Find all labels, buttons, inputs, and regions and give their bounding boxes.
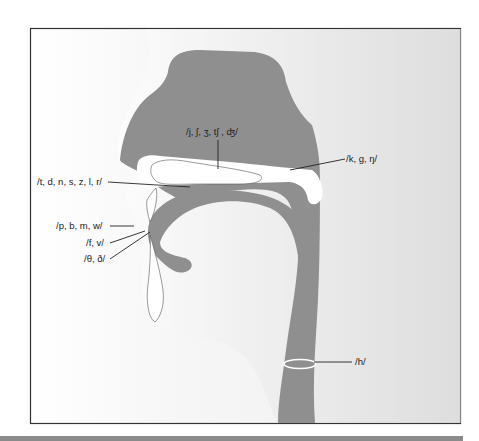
bottom-bar [0,436,463,441]
label-alveolar: /t, d, n, s, z, l, r/ [37,176,102,187]
label-dental: /θ, ð/ [84,253,105,264]
label-bilabial: /p, b, m, w/ [56,220,103,231]
label-velar: /k, g, ŋ/ [346,153,378,164]
label-labiodental: /f, v/ [86,237,104,248]
vocal-tract-diagram: /j, ʃ, ʒ, tʃ , ʤ/ /k, g, ŋ/ /t, d, n, s,… [0,0,479,441]
label-palatal: /j, ʃ, ʒ, tʃ , ʤ/ [186,126,238,137]
label-glottal: /h/ [355,356,366,367]
